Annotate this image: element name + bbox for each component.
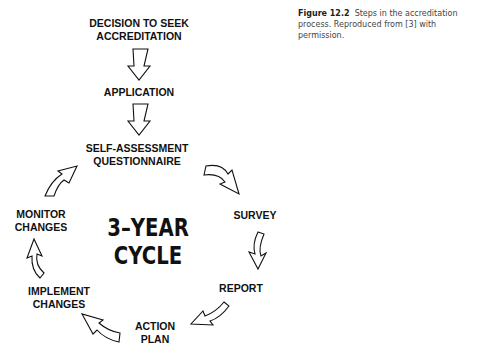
down-arrow-icon (128, 49, 150, 80)
step-questionnaire: SELF-ASSESSMENT QUESTIONNAIRE (86, 142, 189, 168)
figure-caption: Figure 12.2 Steps in the accreditation p… (298, 8, 483, 41)
curved-arrow-icon (27, 239, 44, 278)
step-implement: IMPLEMENT CHANGES (28, 285, 90, 311)
step-report: REPORT (219, 282, 263, 295)
step-action-plan: ACTION PLAN (135, 320, 175, 346)
center-label: 3–YEAR CYCLE (107, 214, 189, 270)
curved-arrow-icon (45, 166, 77, 196)
caption-label: Figure 12.2 (298, 9, 350, 18)
curved-arrow-icon (204, 165, 239, 194)
curved-arrow-icon (191, 302, 229, 325)
step-decision: DECISION TO SEEK ACCREDITATION (89, 17, 189, 43)
step-application: APPLICATION (104, 86, 174, 99)
down-arrow-icon (128, 104, 150, 135)
curved-arrow-icon (82, 314, 120, 342)
curved-arrow-icon (249, 232, 266, 269)
step-monitor: MONITOR CHANGES (15, 208, 68, 234)
step-survey: SURVEY (234, 209, 277, 222)
